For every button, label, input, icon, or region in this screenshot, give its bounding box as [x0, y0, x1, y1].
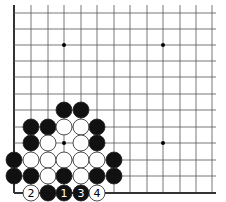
white-stone — [23, 152, 39, 168]
star-point — [62, 141, 66, 145]
black-stone — [23, 119, 39, 135]
black-stone — [40, 119, 56, 135]
black-stone — [89, 168, 105, 184]
star-point — [161, 43, 165, 47]
move-number: 3 — [78, 187, 85, 200]
black-stone — [40, 185, 56, 201]
black-stone — [89, 135, 105, 151]
go-board: 2134 — [0, 0, 226, 202]
black-stone — [56, 168, 72, 184]
white-stone: 2 — [23, 185, 39, 201]
black-stone — [106, 168, 122, 184]
white-stone — [73, 135, 89, 151]
black-stone — [89, 119, 105, 135]
white-stone — [56, 119, 72, 135]
black-stone — [106, 152, 122, 168]
black-stone — [23, 168, 39, 184]
white-stone — [56, 152, 72, 168]
move-number: 4 — [94, 187, 101, 200]
black-stone — [6, 152, 22, 168]
white-stone — [40, 168, 56, 184]
black-stone — [56, 102, 72, 118]
move-number: 1 — [61, 187, 68, 200]
black-stone — [23, 135, 39, 151]
white-stone — [73, 152, 89, 168]
white-stone — [40, 135, 56, 151]
star-point — [62, 43, 66, 47]
move-number: 2 — [28, 187, 35, 200]
black-stone: 3 — [73, 185, 89, 201]
white-stone — [73, 168, 89, 184]
white-stone — [73, 119, 89, 135]
star-point — [161, 141, 165, 145]
black-stone — [73, 102, 89, 118]
black-stone: 1 — [56, 185, 72, 201]
white-stone — [89, 152, 105, 168]
white-stone: 4 — [89, 185, 105, 201]
white-stone — [40, 152, 56, 168]
black-stone — [6, 168, 22, 184]
